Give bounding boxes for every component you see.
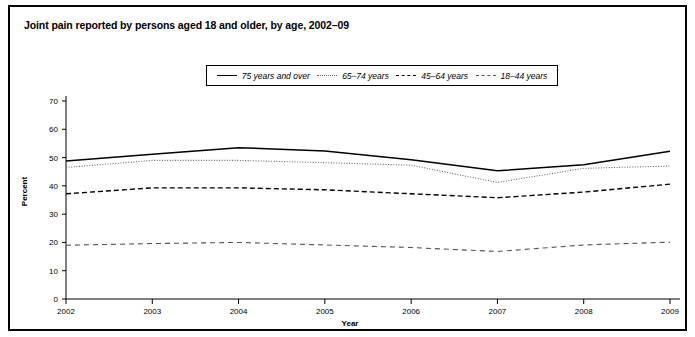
x-tick-label: 2004: [230, 307, 248, 316]
plot-area: 0102030405060702002200320042005200620072…: [10, 7, 689, 333]
series-line-2: [66, 160, 670, 182]
x-tick-label: 2003: [143, 307, 161, 316]
x-axis-label: Year: [310, 319, 390, 328]
x-tick-label: 2002: [57, 307, 75, 316]
x-tick-label: 2007: [489, 307, 507, 316]
y-tick-label: 60: [49, 125, 58, 134]
y-axis-label: Percent: [20, 162, 29, 222]
y-tick-label: 20: [49, 238, 58, 247]
x-tick-label: 2006: [402, 307, 420, 316]
series-line-3: [66, 184, 670, 198]
x-tick-label: 2005: [316, 307, 334, 316]
series-line-4: [66, 242, 670, 251]
axes-group: [62, 96, 680, 304]
x-tick-label: 2009: [661, 307, 679, 316]
x-tick-label: 2008: [575, 307, 593, 316]
series-line-1: [66, 148, 670, 171]
y-tick-label: 0: [54, 295, 59, 304]
y-tick-label: 10: [49, 267, 58, 276]
y-tick-label: 50: [49, 154, 58, 163]
line-chart-svg: 0102030405060702002200320042005200620072…: [10, 7, 689, 333]
y-tick-label: 30: [49, 210, 58, 219]
y-tick-label: 70: [49, 97, 58, 106]
series-group: [66, 148, 670, 252]
y-tick-label: 40: [49, 182, 58, 191]
figure-panel: Joint pain reported by persons aged 18 a…: [8, 5, 687, 331]
tick-labels-group: 0102030405060702002200320042005200620072…: [49, 97, 679, 316]
